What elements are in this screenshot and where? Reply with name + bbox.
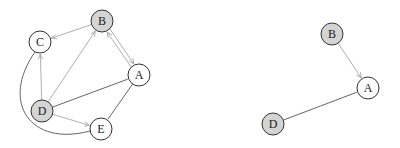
graph-canvas: ABCDEABD: [0, 0, 400, 148]
edge-left-B-C: [51, 25, 91, 39]
node-left-D[interactable]: D: [31, 100, 53, 122]
edge-left-A-E: [108, 84, 133, 119]
edge-left-D-C: [40, 54, 41, 100]
node-right-D[interactable]: D: [262, 113, 284, 135]
edge-left-D-B: [48, 31, 95, 102]
edge-right-D-A: [283, 92, 356, 120]
node-label: D: [269, 117, 278, 131]
node-label: E: [97, 122, 104, 136]
edge-left-B-A: [110, 29, 134, 64]
node-right-A[interactable]: A: [357, 77, 379, 99]
node-left-C[interactable]: C: [29, 31, 51, 53]
node-label: D: [38, 104, 47, 118]
node-left-E[interactable]: E: [90, 118, 112, 140]
node-left-A[interactable]: A: [128, 64, 150, 86]
node-label: B: [98, 14, 106, 28]
edge-left-D-A: [52, 79, 127, 107]
node-label: A: [364, 81, 373, 95]
node-label: C: [36, 35, 44, 49]
node-left-B[interactable]: B: [91, 10, 113, 32]
node-label: B: [328, 27, 336, 41]
node-right-B[interactable]: B: [321, 23, 343, 45]
edges-layer: [20, 25, 361, 135]
node-label: A: [135, 68, 144, 82]
edge-right-B-A: [338, 43, 361, 78]
nodes-layer: ABCDEABD: [29, 10, 379, 140]
edge-left-D-E: [53, 114, 90, 125]
edge-left-A-B: [107, 32, 131, 67]
